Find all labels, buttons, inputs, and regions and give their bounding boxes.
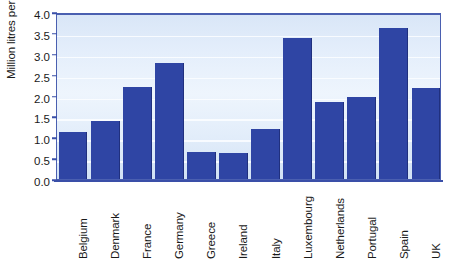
y-axis-tick-label: 2.5 [20,72,50,84]
x-axis-baseline [54,180,443,182]
x-axis-tick-label: UK [430,243,442,259]
y-axis-tick-label: 0.0 [20,176,50,188]
y-axis-tick-label: 2.0 [20,93,50,105]
y-axis-tick-mark [52,75,57,77]
plot-area [56,13,441,180]
x-axis-tick-label: France [141,224,153,259]
x-axis-tick-label-group: BelgiumDenmarkFranceGermanyGreeceIreland… [56,183,441,263]
bar [187,152,216,179]
x-axis-tick-label: Ireland [237,225,249,259]
bar-chart-figure: Million litres per annum 4.03.53.02.52.0… [0,0,450,265]
y-axis-tick-mark [52,33,57,35]
x-axis-tick-label: Germany [173,212,185,259]
bar [283,38,312,179]
y-axis-tick-label: 3.0 [20,51,50,63]
y-axis-tick-mark [52,158,57,160]
y-axis-tick-mark [52,138,57,140]
x-axis-tick-label: Greece [205,222,217,259]
y-axis-tick-mark [52,117,57,119]
x-axis-tick-label: Italy [270,238,282,259]
bar [219,153,248,179]
bar [315,102,344,179]
y-axis-tick-mark [52,12,57,14]
y-axis-tick-label: 1.0 [20,134,50,146]
x-axis-tick-label: Denmark [109,213,121,259]
x-axis-tick-label: Portugal [366,217,378,259]
clipped-title-text [56,0,356,2]
y-axis-tick-mark [52,54,57,56]
bars-layer [57,15,440,179]
x-axis-tick-label: Spain [398,230,410,259]
bar [91,121,120,179]
y-axis-tick-label: 4.0 [20,9,50,21]
bar [347,97,376,179]
y-axis-tick-label: 1.5 [20,113,50,125]
y-axis-tick-label: 0.5 [20,155,50,167]
bar [412,88,441,179]
bar [379,28,408,179]
y-axis-tick-label: 3.5 [20,30,50,42]
y-axis-tick-label-group: 4.03.53.02.52.01.51.00.50.0 [20,15,50,180]
y-axis-tick-mark [52,96,57,98]
y-axis-tick-mark [52,179,57,181]
x-axis-tick-label: Luxembourg [302,196,314,259]
bar [251,129,280,179]
bar [123,87,152,179]
x-axis-tick-label: Belgium [77,218,89,259]
x-axis-tick-label: Netherlands [334,198,346,259]
bar [59,132,88,179]
bar [155,63,184,179]
